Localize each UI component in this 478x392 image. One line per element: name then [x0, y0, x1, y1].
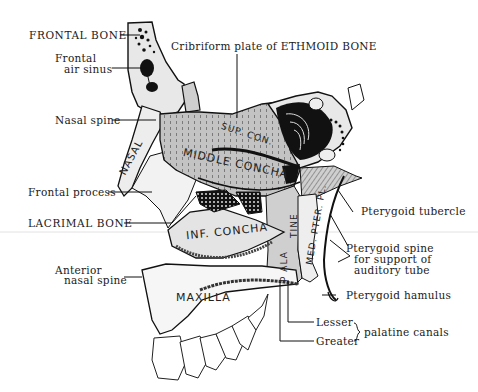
- bone-text-palatine-upper: TINE: [290, 213, 299, 238]
- label-anterior-nasal-spine-2: nasal spine: [64, 275, 127, 286]
- label-lacrimal-bone: LACRIMAL BONE: [28, 218, 132, 229]
- label-pterygoid-tubercle: Pterygoid tubercle: [361, 206, 466, 217]
- label-frontal-air-sinus-1: Frontal: [55, 53, 96, 64]
- frontal-bone-shape: [128, 22, 186, 118]
- bone-text-maxilla: MAXILLA: [176, 292, 231, 303]
- label-palatine-canals: palatine canals: [364, 327, 449, 338]
- label-cribriform-plate: Cribriform plate of ETHMOID BONE: [171, 41, 377, 52]
- label-frontal-bone: FRONTAL BONE: [29, 30, 127, 41]
- label-nasal-spine: Nasal spine: [55, 115, 121, 126]
- label-pterygoid-spine-2: for support of: [354, 254, 431, 265]
- label-frontal-air-sinus-2: air sinus: [64, 64, 112, 75]
- label-pterygoid-spine-1: Pterygoid spine: [346, 243, 434, 254]
- label-pterygoid-spine-3: auditory tube: [354, 265, 430, 276]
- anatomy-figure: FRONTAL BONE Frontal air sinus Cribrifor…: [0, 0, 478, 392]
- label-frontal-process: Frontal process: [28, 187, 116, 198]
- label-pterygoid-hamulus: Pterygoid hamulus: [346, 290, 451, 301]
- label-greater-palatine: Greater: [316, 336, 359, 347]
- bone-text-palatine-lower: P ALA: [280, 251, 289, 282]
- label-lesser-palatine: Lesser: [316, 317, 353, 328]
